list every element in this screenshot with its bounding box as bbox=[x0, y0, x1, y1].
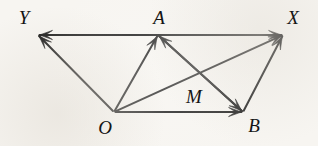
vertex-label-a: A bbox=[153, 8, 165, 27]
geometry-figure: Y A X O B M bbox=[0, 0, 318, 146]
vertex-label-y: Y bbox=[19, 8, 30, 27]
segment-B-X bbox=[244, 36, 283, 110]
segment-O-Y bbox=[39, 36, 113, 111]
vertex-label-m: M bbox=[186, 87, 202, 106]
arrowhead bbox=[147, 36, 157, 50]
edges-layer bbox=[39, 35, 282, 112]
segment-O-A bbox=[115, 36, 158, 110]
vertex-label-o: O bbox=[98, 118, 112, 137]
vertex-label-b: B bbox=[248, 116, 260, 135]
vertex-label-x: X bbox=[287, 8, 299, 27]
